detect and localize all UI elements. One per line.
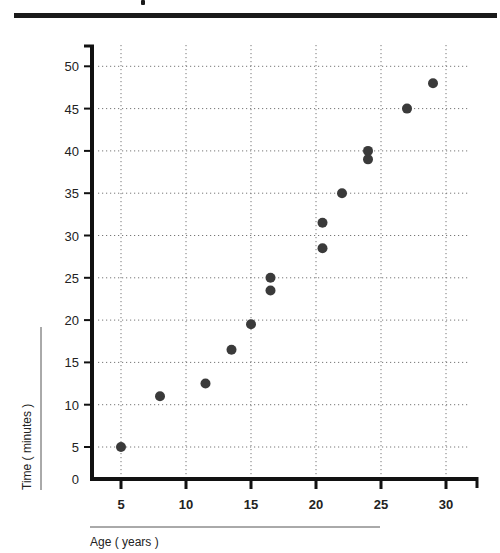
data-point xyxy=(363,154,373,164)
data-point xyxy=(266,273,276,283)
scatter-plot: 05101520253035404550 51015202530 Age ( y… xyxy=(0,0,500,553)
data-point xyxy=(428,78,438,88)
y-tick-label: 20 xyxy=(65,313,79,328)
x-tick-label: 20 xyxy=(309,497,323,512)
x-axis-ticks: 51015202530 xyxy=(117,479,453,512)
y-tick-label: 30 xyxy=(65,229,79,244)
y-tick-label: 25 xyxy=(65,271,79,286)
y-tick-label: 0 xyxy=(72,472,79,487)
y-axis-ticks: 05101520253035404550 xyxy=(65,59,92,487)
data-point xyxy=(155,391,165,401)
data-point xyxy=(246,319,256,329)
y-tick-label: 5 xyxy=(72,440,79,455)
x-tick-label: 15 xyxy=(244,497,258,512)
data-point xyxy=(116,442,126,452)
data-point xyxy=(402,104,412,114)
data-point xyxy=(318,218,328,228)
y-tick-label: 50 xyxy=(65,59,79,74)
x-tick-label: 25 xyxy=(374,497,388,512)
data-point xyxy=(201,379,211,389)
y-tick-label: 40 xyxy=(65,144,79,159)
data-points xyxy=(116,78,438,452)
y-axis-title: Time ( minutes ) xyxy=(20,404,34,490)
x-tick-label: 30 xyxy=(439,497,453,512)
x-tick-label: 5 xyxy=(117,497,124,512)
data-point xyxy=(266,285,276,295)
x-tick-label: 10 xyxy=(179,497,193,512)
data-point xyxy=(337,188,347,198)
axes xyxy=(84,46,478,488)
y-tick-label: 10 xyxy=(65,398,79,413)
y-tick-label: 35 xyxy=(65,186,79,201)
gridlines xyxy=(98,45,470,475)
y-tick-label: 15 xyxy=(65,355,79,370)
data-point xyxy=(318,243,328,253)
data-point xyxy=(227,345,237,355)
x-axis-title: Age ( years ) xyxy=(90,535,159,549)
y-tick-label: 45 xyxy=(65,102,79,117)
